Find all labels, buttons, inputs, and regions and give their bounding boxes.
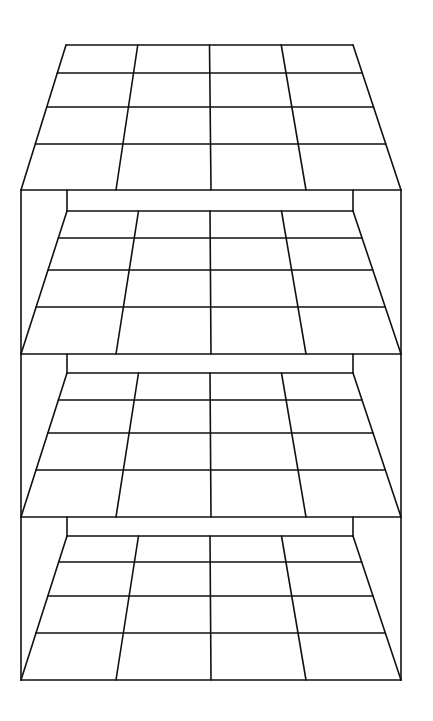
grid-column-line [210,45,212,190]
grid-column-line [210,373,211,517]
grid-column-line [116,373,139,517]
board-left-edge [21,536,67,680]
grid-column-line [116,211,139,354]
grid-column-line [282,373,307,517]
board-right-edge [353,373,401,517]
board-1-top [21,45,401,190]
board-left-edge [21,373,67,517]
grid-column-line [282,536,307,680]
grid-column-line [281,45,306,190]
board-2 [21,190,401,354]
board-left-edge [21,45,66,190]
board-3 [21,354,401,517]
board-right-edge [353,536,401,680]
board-4-bottom [21,517,401,680]
grid-column-line [116,45,138,190]
grid-column-line [210,536,211,680]
diagram-canvas [0,0,433,721]
grid-column-line [282,211,307,354]
grid-column-line [116,536,139,680]
stacked-grid-diagram [0,0,433,721]
grid-column-line [210,211,211,354]
board-right-edge [353,211,401,354]
board-right-edge [353,45,401,190]
board-left-edge [21,211,67,354]
